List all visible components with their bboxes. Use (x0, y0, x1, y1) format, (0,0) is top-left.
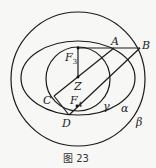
segment-C-A (54, 48, 114, 96)
point-F3 (77, 47, 80, 50)
label-A: A (110, 35, 119, 48)
label-Z: Z (73, 80, 82, 93)
label-C: C (43, 94, 52, 107)
label-alpha: α (121, 102, 129, 115)
label-F3: F3 (64, 51, 77, 66)
label-beta: β (135, 116, 142, 129)
label-F4: F4 (69, 94, 83, 109)
circle-beta (11, 12, 145, 146)
label-B: B (141, 39, 150, 52)
label-D: D (61, 117, 71, 130)
figure-caption: 图 23 (63, 153, 89, 164)
geometry-diagram: A B C D Z F3 F4 γ α β 图 23 (0, 0, 156, 168)
label-gamma: γ (103, 100, 110, 113)
point-Z (77, 76, 80, 79)
